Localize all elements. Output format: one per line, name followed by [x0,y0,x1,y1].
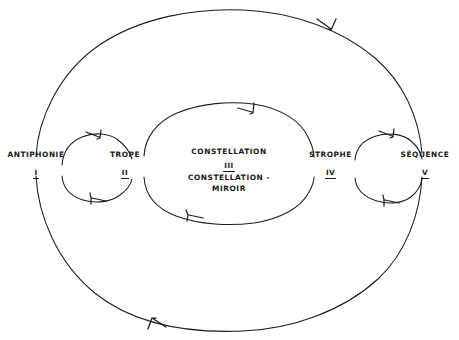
node-constellation-title-line-3: MIROIR [168,183,290,194]
node-strophe: STROPHE IV [302,150,359,179]
node-sequence-title: SÉQUENCE [393,150,457,160]
node-sequence: SÉQUENCE V [393,150,457,179]
node-constellation-numeral: III [223,160,235,172]
node-strophe-numeral: IV [325,168,336,179]
right-loop-bottom-arc [355,178,422,203]
middle-loop-top-arrowhead [238,103,254,114]
left-loop-bottom-arc [62,176,132,202]
node-trope-title: TROPE [100,150,150,160]
node-sequence-numeral: V [421,168,429,179]
node-constellation: CONSTELLATION III CONSTELLATION - MIROIR [168,146,290,194]
node-antiphonie-numeral: I [33,168,38,179]
node-trope: TROPE II [100,150,150,179]
diagram-canvas: ANTIPHONIE I TROPE II CONSTELLATION III … [0,0,459,340]
node-constellation-title-line-1: CONSTELLATION [168,146,290,157]
node-antiphonie: ANTIPHONIE I [0,150,72,179]
node-trope-numeral: II [121,168,129,179]
outer-loop-bottom-arc [36,176,422,331]
node-antiphonie-title: ANTIPHONIE [0,150,72,160]
node-constellation-title-line-2: CONSTELLATION - [168,172,290,183]
node-strophe-title: STROPHE [302,150,359,160]
right-loop-bottom-arrowhead [383,195,399,206]
